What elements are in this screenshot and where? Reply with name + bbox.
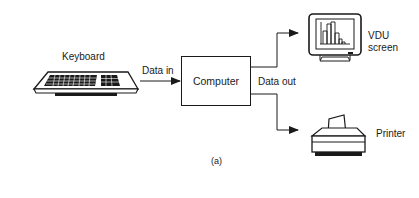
figure-caption: (a) xyxy=(211,156,222,167)
printer-icon xyxy=(312,115,365,156)
vdu-label: VDU screen xyxy=(368,30,398,54)
vdu-label-line2: screen xyxy=(368,42,398,54)
monitor-icon xyxy=(309,14,361,61)
keyboard-icon xyxy=(34,72,138,96)
data-out-label: Data out xyxy=(258,76,296,87)
printer-label: Printer xyxy=(376,128,405,139)
keyboard-label: Keyboard xyxy=(62,51,105,62)
data-in-label: Data in xyxy=(142,65,174,76)
computer-box: Computer xyxy=(181,56,251,106)
vdu-label-line1: VDU xyxy=(368,30,398,42)
computer-label: Computer xyxy=(193,75,239,87)
